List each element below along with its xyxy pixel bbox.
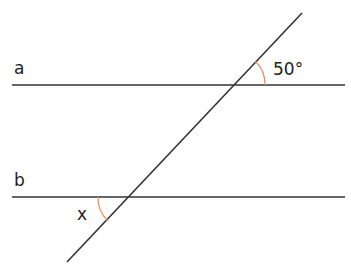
angle-arc-x — [98, 197, 108, 221]
transversal-line — [67, 13, 302, 262]
label-angle-50: 50° — [273, 61, 303, 78]
label-line-a: a — [14, 60, 24, 77]
diagram-svg — [0, 0, 351, 269]
label-angle-x: x — [77, 206, 87, 223]
label-line-b: b — [14, 172, 25, 189]
angle-diagram: a b 50° x — [0, 0, 351, 269]
angle-arc-50 — [255, 61, 265, 85]
